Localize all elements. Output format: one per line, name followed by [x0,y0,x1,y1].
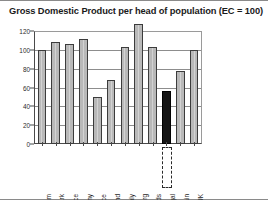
y-tick-label: 20 [0,122,30,129]
bar-highlight-stripe [83,40,84,143]
bar-germany [79,39,88,144]
bar-spain [176,71,185,144]
bar-luxembourg [134,24,143,144]
x-tick-mark [194,142,195,146]
x-tick-label-netherlands: Netherlands [155,194,162,200]
x-tick-label-denmark: Denmark [58,194,65,200]
x-tick-label-luxembourg: Luxembourg [141,194,148,200]
bar-series [35,31,201,144]
x-tick-label-belgium: Belgium [45,194,52,200]
bar-netherlands [148,47,157,144]
bar-france [65,44,74,144]
bar-uk [190,50,199,144]
bar-denmark [51,42,60,144]
x-tick-label-france: France [72,194,79,200]
bar-highlight-stripe [180,72,181,143]
x-tick-mark [180,142,181,146]
bar-belgium [38,50,47,144]
chart-figure: Gross Domestic Product per head of popul… [0,0,268,200]
bar-highlight-stripe [138,25,139,143]
x-tick-label-portugal: Portugal [169,194,176,200]
y-tick-label: 40 [0,103,30,110]
bar-highlight-stripe [41,51,42,143]
bar-ireland [107,80,116,144]
y-tick-label: 80 [0,65,30,72]
y-tick-label: 60 [0,84,30,91]
x-tick-label-uk: UK [197,194,204,200]
x-tick-label-greece: Greece [100,194,107,200]
x-tick-mark [139,142,140,146]
bar-portugal [162,91,171,144]
bar-highlight-stripe [69,45,70,143]
x-tick-mark [97,142,98,146]
x-tick-label-germany: Germany [86,194,93,200]
x-tick-mark [153,142,154,146]
bar-highlight-stripe [194,51,195,143]
bar-greece [93,97,102,144]
y-tick-label: 100 [0,46,30,53]
x-tick-mark [111,142,112,146]
bar-highlight-stripe [111,81,112,143]
x-tick-mark [83,142,84,146]
x-tick-mark [70,142,71,146]
bar-italy [121,47,130,144]
x-tick-mark [125,142,126,146]
bar-highlight-stripe [152,48,153,143]
x-tick-label-ireland: Ireland [114,194,121,200]
x-tick-mark [42,142,43,146]
bar-highlight-stripe [124,48,125,143]
x-tick-label-spain: Spain [183,194,190,200]
plot-wrapper: 020406080100120 BelgiumDenmarkFranceGerm… [0,1,268,200]
x-tick-mark [166,142,167,146]
bar-highlight-stripe [97,98,98,143]
x-tick-label-italy: Italy [128,194,135,200]
y-tick-label: 120 [0,28,30,35]
y-tick-label: 0 [0,141,30,148]
x-tick-mark [56,142,57,146]
bar-highlight-stripe [55,43,56,143]
highlight-box-portugal [162,147,172,188]
x-axis: BelgiumDenmarkFranceGermanyGreeceIreland… [35,146,201,198]
